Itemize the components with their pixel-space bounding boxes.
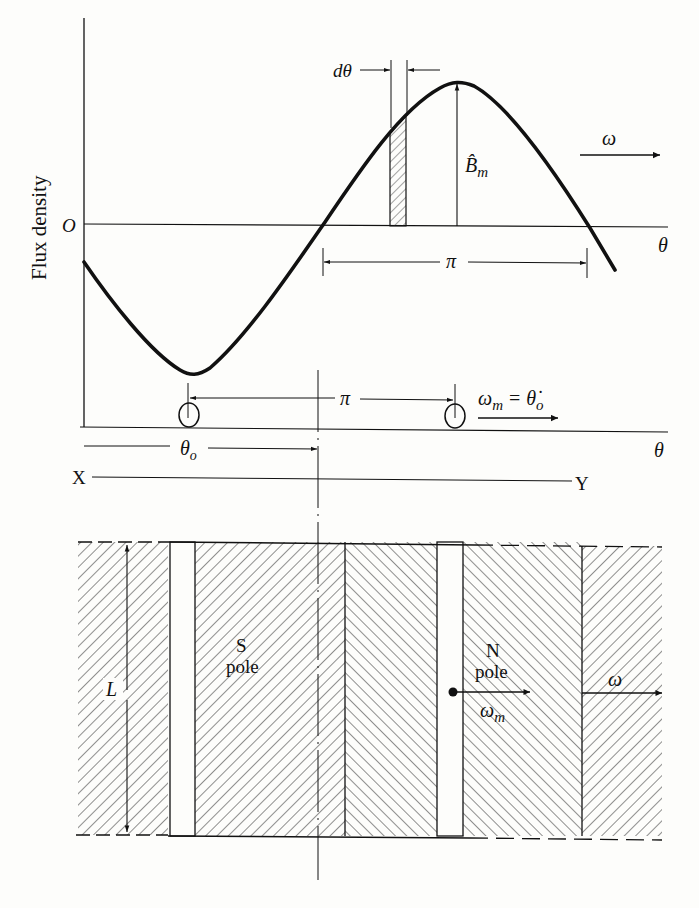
section-end-label: Y [575, 473, 589, 494]
section-start-label: X [72, 467, 86, 488]
lower-section: L S pole N pole ωm ω [76, 542, 662, 840]
rotor-middle-region [345, 542, 437, 836]
origin-label: O [62, 215, 76, 236]
half-period-arrow-right [468, 262, 586, 263]
conductor-spacing-arrow-right [360, 399, 453, 400]
s-pole-label-line1: S [236, 635, 247, 656]
flux-density-curve [84, 82, 615, 374]
conductor-spacing-label: π [340, 387, 351, 409]
rotor-position-line: π ωm=θ̇o θ θo X Y [72, 383, 668, 494]
upper-plot: Flux density O θ dθ B̂m π ω [27, 18, 668, 427]
stator-right-region [582, 546, 662, 836]
stator-right-bottom-dashed [470, 838, 662, 840]
rotor-speed-equation: ωm=θ̇o [478, 387, 544, 413]
field-speed-label: ω [608, 668, 622, 690]
x-axis [84, 224, 668, 227]
y-axis-label: Flux density [27, 175, 51, 280]
amplitude-label: B̂m [465, 154, 488, 180]
half-period-label: π [446, 250, 457, 272]
theta-o-label: θo [180, 437, 197, 463]
rotor-theta-axis-label: θ [654, 439, 664, 461]
diagram-canvas: Flux density O θ dθ B̂m π ω π ωm=θ̇o [0, 0, 699, 908]
air-gap-left [170, 542, 195, 836]
d-theta-strip [390, 116, 406, 226]
rotor-theta-axis [80, 427, 668, 432]
length-label: L [105, 678, 117, 700]
theta-o-arrow-right [208, 448, 317, 449]
wave-speed-label: ω [602, 127, 616, 149]
n-pole-label-line2: pole [475, 661, 508, 682]
rotor-bottom-edge [168, 836, 470, 838]
section-line [92, 477, 572, 481]
d-theta-label: dθ [333, 60, 352, 81]
s-pole-label-line2: pole [226, 656, 259, 677]
n-pole-region [463, 542, 582, 836]
x-axis-label: θ [658, 234, 668, 256]
conductor-circle-left [179, 403, 199, 427]
s-pole-region [195, 542, 345, 836]
n-pole-label-line1: N [486, 640, 500, 661]
